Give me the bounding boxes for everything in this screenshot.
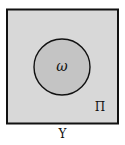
outer-set-label: Π: [95, 100, 105, 114]
inner-set-label: ω: [56, 58, 68, 74]
caption-label: Υ: [58, 127, 68, 141]
venn-diagram: ω Π Υ: [0, 0, 125, 145]
